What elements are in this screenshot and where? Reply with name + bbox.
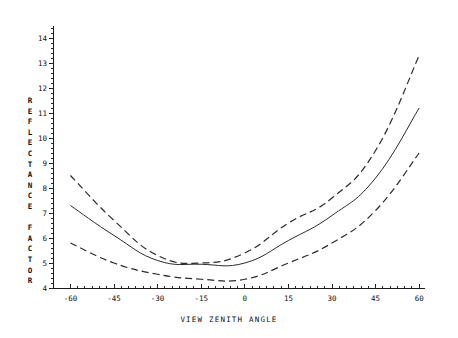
y-tick-label: 8 xyxy=(42,184,47,193)
y-tick-label: 13 xyxy=(38,59,47,68)
y-tick-label: 14 xyxy=(38,34,48,43)
series-lower-bound xyxy=(70,153,419,281)
x-axis-title: VIEW ZENITH ANGLE xyxy=(180,315,277,324)
y-tick-label: 6 xyxy=(42,234,47,243)
x-tick-label: -60 xyxy=(64,294,78,303)
x-tick-label: 60 xyxy=(415,294,425,303)
y-tick-label: 4 xyxy=(42,284,47,293)
y-axis-title-char: O xyxy=(28,266,33,275)
y-axis-title-char: R xyxy=(28,276,33,285)
y-axis-title-char: C xyxy=(28,149,33,158)
y-axis-title-char: R xyxy=(28,96,33,105)
x-tick-label: -45 xyxy=(107,294,121,303)
x-tick-label: 0 xyxy=(243,294,248,303)
y-tick-label: 5 xyxy=(42,259,47,268)
series-upper-bound xyxy=(70,56,419,264)
data-series-layer xyxy=(70,56,419,282)
y-axis-title-char: C xyxy=(28,191,33,200)
y-axis-title-char: C xyxy=(28,244,33,253)
y-axis-title-char: N xyxy=(28,181,33,190)
y-tick-label: 12 xyxy=(38,84,47,93)
y-axis-title-char: E xyxy=(28,107,33,116)
chart-figure: 4567891011121314 -60-45-30-15015304560 R… xyxy=(0,0,458,338)
y-tick-label: 7 xyxy=(42,209,47,218)
reflectance-vs-zenith-angle-plot: 4567891011121314 -60-45-30-15015304560 R… xyxy=(0,0,458,338)
y-tick-label: 10 xyxy=(38,134,48,143)
y-axis-title-char: T xyxy=(28,160,33,169)
y-tick-label: 9 xyxy=(42,159,47,168)
x-tick-label: 15 xyxy=(284,294,293,303)
y-tick-label: 11 xyxy=(38,109,47,118)
x-tick-label: 30 xyxy=(327,294,337,303)
x-tick-label: -15 xyxy=(194,294,208,303)
y-axis-title-char: E xyxy=(28,138,33,147)
x-tick-label: 45 xyxy=(371,294,380,303)
y-axis-title-char: T xyxy=(28,255,33,264)
series-mean xyxy=(70,108,419,266)
y-axis-title-char: L xyxy=(28,128,33,137)
y-axis-title-char: E xyxy=(28,202,33,211)
y-axis-title-char: F xyxy=(28,117,33,126)
x-axis-tick-labels: -60-45-30-15015304560 xyxy=(64,294,425,303)
y-axis-title-char: A xyxy=(28,170,33,179)
y-axis-title-char: A xyxy=(28,234,33,243)
x-tick-label: -30 xyxy=(151,294,165,303)
y-axis-title-char: F xyxy=(28,223,33,232)
y-axis-title: REFLECTANCEFACTOR xyxy=(28,96,33,285)
y-axis-tick-labels: 4567891011121314 xyxy=(38,34,48,293)
